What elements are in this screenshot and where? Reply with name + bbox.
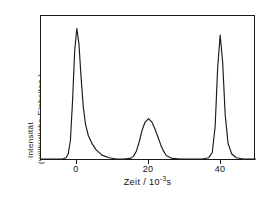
- signal-polyline: [41, 29, 256, 159]
- x-tick-label-0: 0: [63, 164, 89, 174]
- x-tick-label-20: 20: [135, 164, 161, 174]
- x-axis-label: Zeit / 10-3s: [40, 177, 255, 187]
- plot-area: [40, 15, 255, 160]
- y-axis-label: Intensität (willkürliche Einheiten ): [0, 0, 40, 170]
- signal-curve: [41, 16, 256, 161]
- y-axis-label-line1: Intensität: [26, 122, 35, 158]
- figure-container: Intensität (willkürliche Einheiten ) 0 2…: [0, 0, 270, 199]
- x-axis-label-suffix: s: [166, 177, 171, 187]
- x-tick-label-40: 40: [207, 164, 233, 174]
- x-axis-label-prefix: Zeit / 10: [124, 177, 160, 187]
